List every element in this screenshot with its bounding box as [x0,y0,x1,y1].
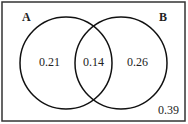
outside-value: 0.39 [158,104,179,116]
b-only-value: 0.26 [127,56,148,68]
set-b-label: B [159,11,167,23]
set-a-label: A [22,11,31,23]
a-only-value: 0.21 [39,56,60,68]
intersection-value: 0.14 [83,56,104,68]
